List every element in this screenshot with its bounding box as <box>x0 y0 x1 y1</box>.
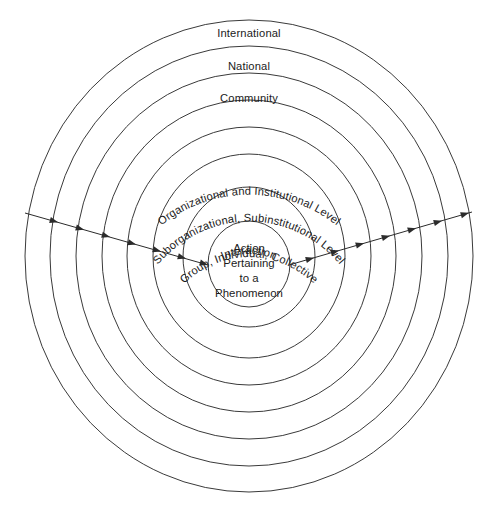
arrowhead-icon <box>305 255 315 263</box>
arrowhead-icon <box>127 239 137 247</box>
core-label-line-3: to a <box>240 272 260 284</box>
arrowhead-icon <box>433 218 443 226</box>
core-label-line-1: Action <box>233 242 265 254</box>
arrowhead-icon <box>177 253 187 261</box>
ring-label-international: International <box>217 27 281 39</box>
arrowhead-icon <box>407 225 417 233</box>
diagram-canvas: International National Community Organiz… <box>0 0 496 507</box>
ring-label-community: Community <box>220 92 278 104</box>
arrowhead-icon <box>355 240 365 248</box>
arrowhead-icon <box>75 224 85 232</box>
concentric-levels-diagram: International National Community Organiz… <box>0 0 496 507</box>
arrowhead-icon <box>381 233 391 241</box>
core-label-line-2: Pertaining <box>223 257 274 269</box>
arrowhead-icon <box>49 217 59 225</box>
core-label-line-4: Phenomenon <box>215 287 283 299</box>
ring-label-national: National <box>228 60 270 72</box>
